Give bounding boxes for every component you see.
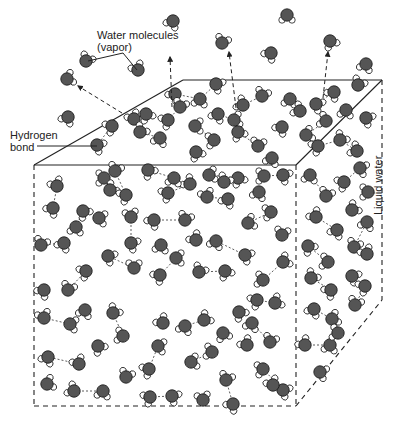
liquid-water-molecule xyxy=(138,160,160,182)
liquid-water-molecule xyxy=(239,212,258,232)
evaporation-arrow xyxy=(170,57,172,107)
oxygen-atom xyxy=(40,349,57,366)
oxygen-atom xyxy=(249,292,266,309)
oxygen-atom xyxy=(329,222,346,239)
oxygen-atom xyxy=(104,304,121,321)
oxygen-atom xyxy=(275,254,292,271)
liquid-water-molecule xyxy=(246,290,267,311)
oxygen-atom xyxy=(325,83,342,100)
oxygen-atom xyxy=(195,311,212,328)
liquid-water-molecule xyxy=(207,74,228,95)
liquid-water-molecule xyxy=(351,158,370,178)
liquid-water-molecule xyxy=(337,102,356,119)
oxygen-atom xyxy=(151,266,168,283)
liquid-water-molecule xyxy=(178,172,200,194)
liquid-water-molecule xyxy=(301,167,320,184)
vapor-water-molecule xyxy=(212,32,232,51)
liquid-water-molecule xyxy=(175,209,195,228)
liquid-water-molecule xyxy=(319,280,341,302)
liquid-water-molecule xyxy=(194,391,213,408)
oxygen-atom xyxy=(188,144,205,161)
liquid-water-molecule xyxy=(303,300,324,321)
oxygen-atom xyxy=(154,314,171,331)
liquid-water-molecule xyxy=(151,311,173,333)
oxygen-atom xyxy=(164,388,181,405)
vapor-water-molecule xyxy=(320,32,341,53)
liquid-water-molecule xyxy=(32,280,54,302)
liquid-water-molecule xyxy=(203,343,220,362)
liquid-water-molecule xyxy=(186,143,207,164)
liquid-water-molecule xyxy=(217,190,238,211)
liquid-water-molecule xyxy=(221,394,243,416)
vapor-label-line2: (vapor) xyxy=(97,41,179,53)
liquid-water-molecule xyxy=(304,205,326,227)
oxygen-atom xyxy=(165,13,182,30)
oxygen-atom xyxy=(104,118,121,135)
oxygen-atom xyxy=(343,201,360,218)
liquid-water-molecule xyxy=(205,131,222,150)
oxygen-atom xyxy=(281,9,293,21)
liquid-water-molecule xyxy=(319,253,336,272)
oxygen-atom xyxy=(187,231,204,248)
liquid-water-label: Liquid water xyxy=(372,156,384,215)
liquid-water-molecule xyxy=(207,105,228,126)
hydrogen-bond-label: Hydrogen bond xyxy=(10,129,58,153)
liquid-water-molecule xyxy=(157,183,178,204)
liquid-water-molecule xyxy=(122,208,141,225)
oxygen-atom xyxy=(238,336,255,353)
oxygen-atom xyxy=(181,175,198,192)
liquid-water-molecule xyxy=(333,172,354,193)
liquid-water-molecule xyxy=(88,336,110,358)
oxygen-atom xyxy=(336,174,353,191)
liquid-water-molecule xyxy=(62,315,79,334)
liquid-water-molecule xyxy=(142,210,164,232)
liquid-water-molecule xyxy=(116,366,136,385)
liquid-water-molecule xyxy=(215,262,236,283)
liquid-water-molecule xyxy=(73,201,95,223)
liquid-water-molecule xyxy=(326,221,347,242)
vapor-label: Water molecules (vapor) xyxy=(97,29,179,53)
liquid-water-molecule xyxy=(316,185,336,204)
liquid-water-molecule xyxy=(274,251,295,272)
oxygen-atom xyxy=(128,262,140,274)
vapor-water-molecule xyxy=(58,68,77,88)
oxygen-atom xyxy=(89,137,106,154)
oxygen-atom xyxy=(237,247,254,264)
evaporation-arrow xyxy=(78,86,122,113)
liquid-water-molecule xyxy=(75,261,96,282)
liquid-water-molecule xyxy=(122,233,143,254)
liquid-water-molecule xyxy=(346,140,367,161)
oxygen-atom xyxy=(322,33,339,50)
oxygen-atom xyxy=(74,202,91,219)
liquid-water-molecule xyxy=(63,380,84,401)
liquid-water-molecule xyxy=(94,383,113,400)
liquid-water-molecule xyxy=(348,74,369,95)
liquid-water-molecule xyxy=(150,337,167,356)
oxygen-atom xyxy=(358,110,375,127)
liquid-water-molecule xyxy=(256,168,270,184)
liquid-water-molecule xyxy=(163,386,184,407)
oxygen-atom xyxy=(350,77,367,94)
liquid-water-molecule xyxy=(298,236,320,258)
liquid-water-molecule xyxy=(194,308,216,330)
water-evaporation-diagram: Water molecules (vapor) Hydrogen bond Li… xyxy=(0,0,409,422)
liquid-water-molecule xyxy=(345,294,365,313)
oxygen-atom xyxy=(170,252,182,264)
liquid-water-molecule xyxy=(33,307,53,326)
liquid-water-molecule xyxy=(91,209,108,228)
oxygen-atom xyxy=(100,248,117,265)
oxygen-atom xyxy=(273,118,290,135)
oxygen-atom xyxy=(302,269,319,286)
oxygen-atom xyxy=(224,395,241,412)
oxygen-atom xyxy=(142,389,159,406)
oxygen-atom xyxy=(123,235,140,252)
liquid-water-molecule xyxy=(37,348,58,369)
liquid-water-molecule xyxy=(184,228,206,250)
liquid-water-molecule xyxy=(189,118,203,134)
cube-bottom-right-edge xyxy=(296,300,382,406)
liquid-water-molecule xyxy=(357,108,378,129)
oxygen-atom xyxy=(258,170,270,182)
liquid-water-molecule xyxy=(101,116,122,137)
oxygen-atom xyxy=(308,96,325,113)
hydrogen-bond-label-line2: bond xyxy=(10,141,58,153)
